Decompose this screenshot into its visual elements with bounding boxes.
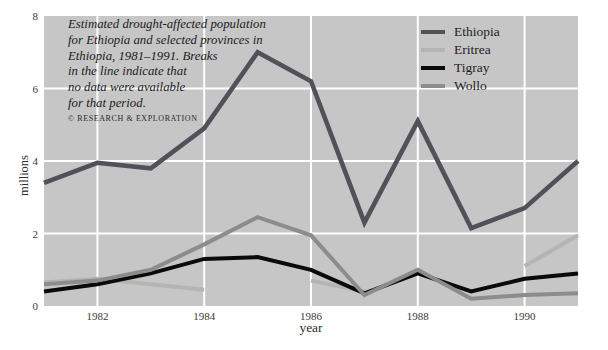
y-tick-label-8: 8	[33, 10, 39, 22]
caption-line-3: Ethiopia, 1981–1991. Breaks	[68, 49, 318, 65]
caption-line-1: Estimated drought-affected population	[68, 17, 318, 33]
caption-line-4: in the line indicate that	[68, 64, 318, 80]
legend-swatch-ethiopia	[421, 30, 445, 35]
y-tick-label-0: 0	[33, 300, 39, 312]
drought-population-chart-figure: 1982198419861988199002468 Estimated drou…	[0, 0, 608, 350]
legend-swatch-eritrea	[421, 48, 445, 52]
y-tick-label-6: 6	[33, 83, 39, 95]
legend-label-wollo: Wollo	[454, 79, 487, 93]
caption-line-6: for that period.	[68, 96, 318, 112]
x-tick-label-1990: 1990	[514, 310, 537, 322]
caption-line-2: for Ethiopia and selected provinces in	[68, 33, 318, 49]
legend-label-ethiopia: Ethiopia	[454, 25, 500, 39]
y-axis-label: millions	[17, 136, 32, 216]
caption-line-5: no data were available	[68, 80, 318, 96]
legend-label-tigray: Tigray	[454, 61, 490, 75]
chart-caption: Estimated drought-affected populationfor…	[68, 17, 318, 112]
legend-item-ethiopia: Ethiopia	[421, 23, 500, 41]
x-tick-label-1984: 1984	[193, 310, 216, 322]
legend-item-wollo: Wollo	[421, 77, 500, 95]
x-tick-label-1982: 1982	[86, 310, 108, 322]
legend-swatch-tigray	[421, 66, 445, 70]
x-axis-label: year	[281, 320, 341, 336]
x-tick-label-1988: 1988	[407, 310, 430, 322]
legend-item-eritrea: Eritrea	[421, 41, 500, 59]
legend-label-eritrea: Eritrea	[454, 43, 491, 57]
chart-legend: EthiopiaEritreaTigrayWollo	[421, 23, 500, 95]
copyright-credit: © RESEARCH & EXPLORATION	[68, 114, 198, 123]
y-tick-label-2: 2	[33, 228, 39, 240]
legend-swatch-wollo	[421, 84, 445, 88]
y-tick-label-4: 4	[33, 155, 39, 167]
legend-item-tigray: Tigray	[421, 59, 500, 77]
